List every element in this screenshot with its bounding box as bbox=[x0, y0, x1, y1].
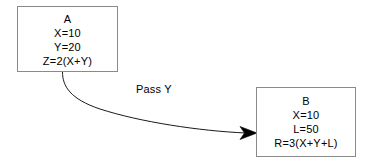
node-b-title: B bbox=[302, 94, 310, 108]
node-a-line-1: X=10 bbox=[54, 26, 81, 40]
edge-label-pass-y: Pass Y bbox=[136, 83, 172, 96]
node-a[interactable]: A X=10 Y=20 Z=2(X+Y) bbox=[17, 6, 118, 72]
node-b-line-2: L=50 bbox=[293, 122, 319, 136]
edge-a-to-b-arrowhead bbox=[240, 127, 257, 140]
edge-a-to-b-curve bbox=[63, 72, 247, 133]
node-b-line-1: X=10 bbox=[293, 108, 320, 122]
diagram-canvas: A X=10 Y=20 Z=2(X+Y) B X=10 L=50 R=3(X+Y… bbox=[0, 0, 368, 165]
node-b-line-3: R=3(X+Y+L) bbox=[274, 136, 337, 150]
node-a-line-3: Z=2(X+Y) bbox=[43, 54, 92, 68]
node-b[interactable]: B X=10 L=50 R=3(X+Y+L) bbox=[256, 87, 356, 157]
node-a-title: A bbox=[64, 12, 72, 26]
node-a-line-2: Y=20 bbox=[54, 40, 81, 54]
